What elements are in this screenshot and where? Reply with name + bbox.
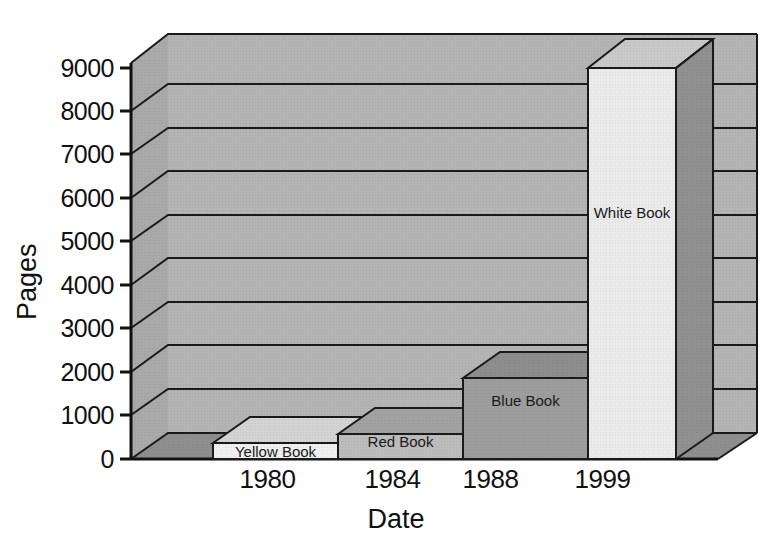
y-tick-label-0: 0	[20, 447, 114, 472]
x-tick-label-1980: 1980	[205, 466, 330, 492]
y-tick-label-2000: 2000	[20, 360, 114, 385]
y-tick-label-6000: 6000	[20, 186, 114, 211]
y-tick-label-1000: 1000	[20, 403, 114, 428]
chart-3d-canvas	[0, 0, 783, 543]
x-tick-label-1988: 1988	[428, 466, 553, 492]
bar-label-blue-book: Blue Book	[463, 393, 588, 408]
x-axis-title: Date	[316, 506, 476, 533]
bar-label-white-book: White Book	[576, 205, 688, 220]
y-tick-label-8000: 8000	[20, 99, 114, 124]
bar-label-red-book: Red Book	[338, 434, 463, 449]
y-tick-label-9000: 9000	[20, 56, 114, 81]
bar-1999-white-book[interactable]	[588, 39, 713, 459]
chart-container: 9000 8000 7000 6000 5000 4000 3000 2000 …	[0, 0, 783, 543]
y-axis-title: Pages	[14, 243, 41, 320]
y-axis	[120, 63, 131, 459]
bar-label-yellow-book: Yellow Book	[213, 444, 338, 459]
y-tick-label-7000: 7000	[20, 142, 114, 167]
x-tick-label-1999: 1999	[540, 466, 665, 492]
